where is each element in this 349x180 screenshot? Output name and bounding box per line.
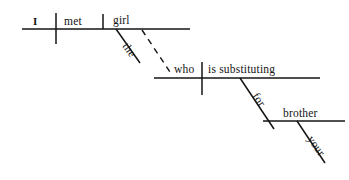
diagram-lines	[0, 0, 349, 180]
label-relative-pronoun: who	[174, 64, 194, 76]
label-direct-object: girl	[113, 15, 130, 27]
label-verb: met	[64, 16, 82, 28]
label-relative-verb: is substituting	[208, 64, 275, 76]
label-prep-object: brother	[283, 108, 318, 120]
connector-dashed-relative	[142, 30, 172, 75]
label-subject: I	[33, 16, 37, 27]
sentence-diagram: I met girl the who is substituting for b…	[0, 0, 349, 180]
